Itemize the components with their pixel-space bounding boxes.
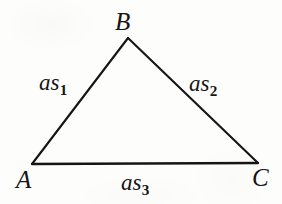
side-bc-line [128, 38, 258, 163]
side-label-ab: as1 [39, 71, 67, 94]
side-label-ac-subscript: 3 [142, 181, 150, 198]
vertex-label-b: B [115, 9, 130, 34]
vertex-label-c: C [252, 165, 269, 190]
vertex-label-a: A [16, 167, 31, 192]
side-label-bc-base: as [189, 71, 209, 96]
side-label-bc-subscript: 2 [210, 82, 218, 99]
side-label-ab-subscript: 1 [60, 81, 68, 98]
side-ac-line [32, 163, 258, 164]
triangle-figure: B A C as1 as2 as3 [0, 0, 282, 204]
side-label-ac-base: as [121, 170, 141, 195]
side-label-ac: as3 [121, 171, 149, 194]
side-label-ab-base: as [39, 70, 59, 95]
side-ab-line [32, 38, 128, 164]
side-label-bc: as2 [189, 72, 217, 95]
